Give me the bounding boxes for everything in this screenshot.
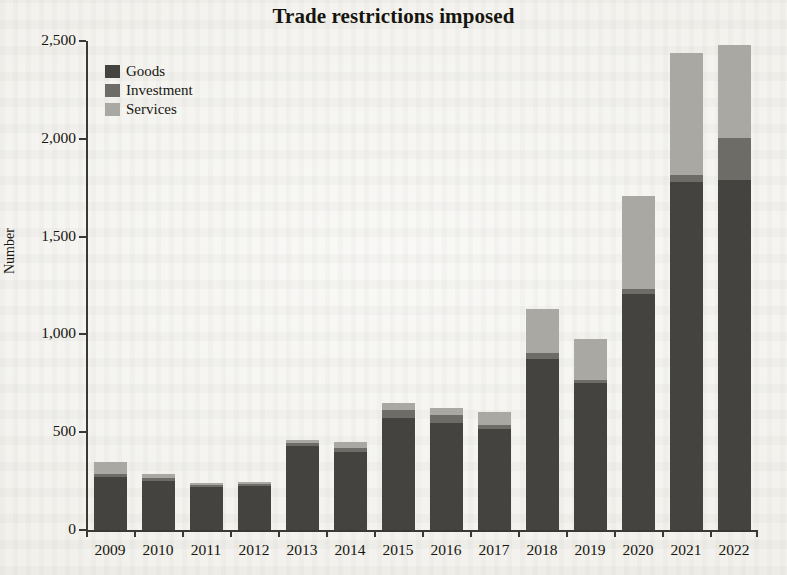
bar-segment-investment[interactable] [238, 484, 271, 486]
bar-segment-goods[interactable] [670, 182, 703, 530]
bar-segment-services[interactable] [574, 339, 607, 380]
x-axis-tick [756, 530, 758, 537]
bar-segment-investment[interactable] [142, 478, 175, 481]
bar-segment-goods[interactable] [334, 452, 367, 530]
x-axis-tick [230, 530, 232, 537]
legend-item[interactable]: Services [105, 100, 193, 119]
y-axis-tick-label: 500 [8, 422, 76, 440]
bar-segment-goods[interactable] [526, 359, 559, 530]
legend-label: Services [126, 102, 177, 117]
bar-segment-services[interactable] [190, 483, 223, 485]
x-axis-tick-label: 2014 [326, 541, 374, 559]
bar-segment-investment[interactable] [190, 485, 223, 487]
bar-segment-investment[interactable] [430, 415, 463, 424]
legend-label: Investment [126, 83, 193, 98]
x-axis-tick-label: 2015 [374, 541, 422, 559]
bar-segment-goods[interactable] [430, 423, 463, 530]
y-axis-line [86, 41, 88, 530]
bar-group[interactable] [238, 41, 271, 530]
bar-segment-goods[interactable] [238, 486, 271, 530]
bar-segment-goods[interactable] [190, 487, 223, 530]
bar-segment-goods[interactable] [718, 180, 751, 530]
bar-group[interactable] [718, 41, 751, 530]
bar-segment-investment[interactable] [382, 410, 415, 418]
x-axis-tick [566, 530, 568, 537]
x-axis-tick [518, 530, 520, 537]
x-axis-tick-label: 2010 [134, 541, 182, 559]
bar-segment-goods[interactable] [286, 446, 319, 530]
bar-segment-investment[interactable] [526, 353, 559, 359]
legend-label: Goods [126, 64, 165, 79]
x-axis-tick-label: 2022 [710, 541, 758, 559]
bar-segment-services[interactable] [286, 440, 319, 443]
bar-segment-services[interactable] [142, 474, 175, 478]
x-axis-tick-label: 2013 [278, 541, 326, 559]
bar-segment-services[interactable] [478, 412, 511, 426]
x-axis-tick-label: 2018 [518, 541, 566, 559]
x-axis-tick [182, 530, 184, 537]
x-axis-tick [134, 530, 136, 537]
chart-title: Trade restrictions imposed [0, 4, 787, 29]
y-axis-tick-label: 0 [8, 520, 76, 538]
x-axis-tick [278, 530, 280, 537]
bar-group[interactable] [382, 41, 415, 530]
bar-group[interactable] [286, 41, 319, 530]
x-axis-tick-label: 2016 [422, 541, 470, 559]
x-axis-tick [374, 530, 376, 537]
bar-group[interactable] [526, 41, 559, 530]
x-axis-tick [662, 530, 664, 537]
y-axis-tick [79, 333, 86, 335]
bar-group[interactable] [670, 41, 703, 530]
y-axis-tick-label: 1,000 [8, 324, 76, 342]
y-axis-tick [79, 40, 86, 42]
bar-segment-services[interactable] [238, 482, 271, 484]
bar-group[interactable] [334, 41, 367, 530]
bar-segment-investment[interactable] [334, 448, 367, 452]
bar-segment-goods[interactable] [478, 429, 511, 530]
legend-swatch-icon [105, 84, 120, 97]
y-axis-tick-label: 1,500 [8, 227, 76, 245]
bar-segment-investment[interactable] [718, 138, 751, 180]
x-axis-tick [470, 530, 472, 537]
bar-segment-investment[interactable] [622, 289, 655, 294]
y-axis-tick [79, 431, 86, 433]
x-axis-tick [710, 530, 712, 537]
x-axis-tick [326, 530, 328, 537]
x-axis-tick-label: 2020 [614, 541, 662, 559]
bar-segment-investment[interactable] [478, 425, 511, 429]
bar-segment-investment[interactable] [94, 474, 127, 477]
bar-group[interactable] [190, 41, 223, 530]
bar-segment-goods[interactable] [142, 481, 175, 530]
bar-segment-services[interactable] [622, 196, 655, 290]
x-axis-tick [422, 530, 424, 537]
bar-segment-goods[interactable] [94, 477, 127, 530]
bar-segment-goods[interactable] [382, 418, 415, 530]
bar-group[interactable] [430, 41, 463, 530]
bar-group[interactable] [478, 41, 511, 530]
bar-group[interactable] [622, 41, 655, 530]
bar-segment-goods[interactable] [622, 294, 655, 530]
bar-segment-services[interactable] [94, 462, 127, 475]
x-axis-tick-label: 2009 [86, 541, 134, 559]
x-axis-tick [86, 530, 88, 537]
legend-item[interactable]: Investment [105, 81, 193, 100]
bar-segment-services[interactable] [334, 442, 367, 448]
bar-segment-goods[interactable] [574, 383, 607, 530]
bar-segment-investment[interactable] [286, 443, 319, 446]
bar-segment-services[interactable] [718, 45, 751, 138]
bar-segment-services[interactable] [430, 408, 463, 415]
bar-segment-investment[interactable] [574, 380, 607, 383]
bar-segment-services[interactable] [670, 53, 703, 175]
y-axis-tick [79, 529, 86, 531]
bar-segment-investment[interactable] [670, 175, 703, 182]
x-axis-tick-label: 2021 [662, 541, 710, 559]
bar-segment-services[interactable] [526, 309, 559, 353]
legend-item[interactable]: Goods [105, 62, 193, 81]
x-axis-tick-label: 2019 [566, 541, 614, 559]
legend-swatch-icon [105, 65, 120, 78]
chart-legend: GoodsInvestmentServices [105, 62, 193, 119]
y-axis-tick [79, 236, 86, 238]
bar-segment-services[interactable] [382, 403, 415, 410]
y-axis-tick-label: 2,500 [8, 31, 76, 49]
bar-group[interactable] [574, 41, 607, 530]
